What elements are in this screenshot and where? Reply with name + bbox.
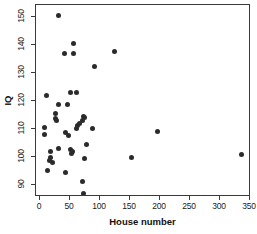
y-tick-mark (31, 156, 35, 157)
data-point (84, 142, 89, 147)
data-points-layer (36, 5, 249, 195)
y-tick-mark (31, 16, 35, 17)
y-tick-label: 130 (16, 63, 26, 81)
y-tick-mark (31, 100, 35, 101)
data-point (56, 146, 61, 151)
data-point (56, 13, 61, 18)
x-tick-label: 50 (54, 201, 84, 211)
data-point (81, 191, 86, 195)
plot-area-frame (35, 4, 250, 196)
data-point (66, 133, 71, 138)
y-tick-label: 100 (16, 147, 26, 165)
data-point (80, 179, 85, 184)
x-tick-label: 0 (24, 201, 54, 211)
data-point (50, 160, 55, 165)
data-point (68, 90, 73, 95)
x-tick-mark (249, 196, 250, 200)
data-point (71, 41, 76, 46)
data-point (112, 49, 117, 54)
data-point (155, 129, 160, 134)
x-tick-label: 300 (204, 201, 234, 211)
y-tick-label: 110 (16, 119, 26, 137)
data-point (69, 151, 74, 156)
y-tick-label: 150 (16, 7, 26, 25)
data-point (42, 132, 47, 137)
x-tick-mark (69, 196, 70, 200)
x-tick-mark (99, 196, 100, 200)
y-tick-mark (31, 128, 35, 129)
x-tick-label: 100 (84, 201, 114, 211)
data-point (82, 156, 87, 161)
y-tick-mark (31, 44, 35, 45)
data-point (45, 168, 50, 173)
y-tick-label: 140 (16, 35, 26, 53)
data-point (42, 125, 47, 130)
data-point (239, 152, 244, 157)
data-point (48, 149, 53, 154)
data-point (74, 90, 79, 95)
x-tick-mark (189, 196, 190, 200)
y-tick-mark (31, 72, 35, 73)
x-tick-mark (219, 196, 220, 200)
x-tick-label: 200 (144, 201, 174, 211)
data-point (56, 102, 61, 107)
x-tick-label: 150 (114, 201, 144, 211)
data-point (54, 118, 59, 123)
x-tick-label: 250 (174, 201, 204, 211)
x-tick-mark (159, 196, 160, 200)
data-point (92, 64, 97, 69)
x-tick-mark (39, 196, 40, 200)
y-tick-mark (31, 184, 35, 185)
y-tick-label: 120 (16, 91, 26, 109)
data-point (62, 51, 67, 56)
data-point (65, 102, 70, 107)
data-point (90, 126, 95, 131)
x-tick-label: 350 (234, 201, 257, 211)
scatter-plot-figure: 050100150200250300350 901001101201301401… (0, 0, 257, 234)
data-point (63, 170, 68, 175)
data-point (129, 155, 134, 160)
x-tick-mark (129, 196, 130, 200)
data-point (74, 126, 79, 131)
data-point (71, 51, 76, 56)
data-point (44, 93, 49, 98)
y-tick-label: 90 (16, 175, 26, 193)
y-axis-title: IQ (2, 86, 13, 116)
x-axis-title: House number (35, 216, 250, 227)
